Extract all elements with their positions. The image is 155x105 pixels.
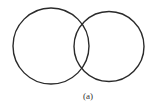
diagram-caption: (a) — [83, 91, 93, 101]
right-circle — [74, 12, 144, 82]
left-circle — [13, 8, 89, 84]
venn-diagram: (a) — [0, 0, 155, 105]
